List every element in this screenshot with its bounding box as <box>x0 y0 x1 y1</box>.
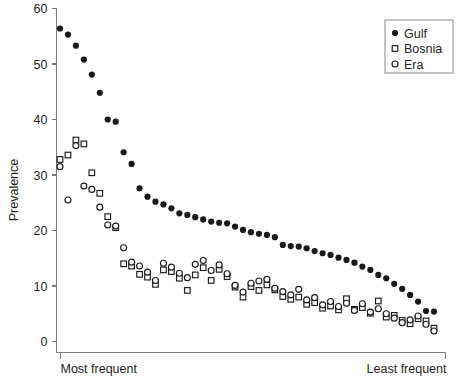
point-era-20 <box>208 267 214 273</box>
point-era-32 <box>304 297 310 303</box>
point-gulf-21 <box>216 220 222 226</box>
point-gulf-44 <box>399 286 405 292</box>
point-era-17 <box>184 275 190 281</box>
point-gulf-39 <box>359 263 365 269</box>
chart-canvas: 0102030405060 GulfBosniaEra PrevalenceMo… <box>0 0 459 385</box>
point-bosnia-26 <box>256 288 262 294</box>
prevalence-scatter-chart: 0102030405060 GulfBosniaEra PrevalenceMo… <box>0 0 459 385</box>
y-tick-label-40: 40 <box>34 113 48 127</box>
point-bosnia-14 <box>161 267 167 273</box>
point-era-42 <box>383 311 389 317</box>
point-era-48 <box>431 328 437 334</box>
point-gulf-2 <box>65 31 71 37</box>
y-tick-label-60: 60 <box>34 2 48 16</box>
point-gulf-33 <box>312 248 318 254</box>
point-bosnia-27 <box>264 282 270 288</box>
point-gulf-29 <box>280 242 286 248</box>
point-bosnia-3 <box>73 137 79 143</box>
point-era-16 <box>176 270 182 276</box>
point-era-40 <box>367 309 373 315</box>
point-gulf-34 <box>319 250 325 256</box>
point-era-14 <box>160 260 166 266</box>
point-gulf-48 <box>431 308 437 314</box>
point-bosnia-4 <box>81 141 87 147</box>
point-gulf-46 <box>415 298 421 304</box>
point-era-23 <box>232 282 238 288</box>
point-era-11 <box>137 263 143 269</box>
point-gulf-16 <box>176 210 182 216</box>
point-bosnia-18 <box>192 272 198 278</box>
point-gulf-5 <box>89 71 95 77</box>
legend-marker-era <box>392 61 398 67</box>
point-gulf-23 <box>232 224 238 230</box>
point-gulf-40 <box>367 267 373 273</box>
point-gulf-31 <box>296 243 302 249</box>
point-gulf-42 <box>383 275 389 281</box>
point-bosnia-17 <box>185 288 191 294</box>
x-axis <box>57 353 446 359</box>
point-bosnia-19 <box>200 265 206 271</box>
point-era-34 <box>320 302 326 308</box>
point-gulf-43 <box>391 281 397 287</box>
point-gulf-15 <box>168 205 174 211</box>
point-bosnia-9 <box>121 261 127 267</box>
point-era-31 <box>296 286 302 292</box>
point-gulf-25 <box>248 229 254 235</box>
legend-label-gulf: Gulf <box>404 27 427 41</box>
x-axis-label-most-frequent: Most frequent <box>61 362 138 376</box>
point-gulf-47 <box>423 308 429 314</box>
series-era <box>57 143 437 334</box>
point-era-36 <box>336 304 342 310</box>
y-tick-label-10: 10 <box>34 280 48 294</box>
legend-label-era: Era <box>404 58 424 72</box>
y-tick-label-0: 0 <box>41 335 48 349</box>
y-axis-title: Prevalence <box>7 159 21 222</box>
point-era-8 <box>113 223 119 229</box>
point-gulf-10 <box>129 161 135 167</box>
point-era-18 <box>192 261 198 267</box>
point-gulf-37 <box>343 257 349 263</box>
chart-legend: GulfBosniaEra <box>385 20 453 73</box>
point-gulf-27 <box>264 232 270 238</box>
y-tick-label-50: 50 <box>34 58 48 72</box>
point-bosnia-31 <box>296 294 302 300</box>
point-gulf-35 <box>327 252 333 258</box>
point-era-38 <box>351 307 357 313</box>
point-gulf-11 <box>136 185 142 191</box>
point-era-22 <box>224 271 230 277</box>
point-gulf-32 <box>304 245 310 251</box>
point-era-19 <box>200 257 206 263</box>
point-era-21 <box>216 262 222 268</box>
point-gulf-6 <box>97 90 103 96</box>
point-era-29 <box>280 289 286 295</box>
point-gulf-19 <box>200 216 206 222</box>
point-era-10 <box>129 259 135 265</box>
point-era-45 <box>407 317 413 323</box>
point-gulf-22 <box>224 220 230 226</box>
point-era-47 <box>423 321 429 327</box>
point-era-6 <box>97 204 103 210</box>
point-era-26 <box>256 278 262 284</box>
point-era-24 <box>240 289 246 295</box>
point-era-25 <box>248 280 254 286</box>
point-era-2 <box>65 197 71 203</box>
point-era-9 <box>121 245 127 251</box>
legend-label-bosnia: Bosnia <box>404 42 442 56</box>
point-gulf-30 <box>288 243 294 249</box>
y-tick-label-20: 20 <box>34 224 48 238</box>
point-era-28 <box>272 285 278 291</box>
point-gulf-38 <box>351 260 357 266</box>
point-gulf-36 <box>335 255 341 261</box>
point-era-39 <box>359 301 365 307</box>
point-era-1 <box>57 164 63 170</box>
point-era-5 <box>89 186 95 192</box>
point-era-30 <box>288 292 294 298</box>
point-era-46 <box>415 313 421 319</box>
point-bosnia-1 <box>57 157 63 163</box>
y-axis: 0102030405060 <box>34 2 57 353</box>
point-gulf-1 <box>57 25 63 31</box>
point-gulf-24 <box>240 227 246 233</box>
legend-marker-gulf <box>392 30 398 36</box>
point-bosnia-7 <box>105 214 111 220</box>
point-era-4 <box>81 183 87 189</box>
